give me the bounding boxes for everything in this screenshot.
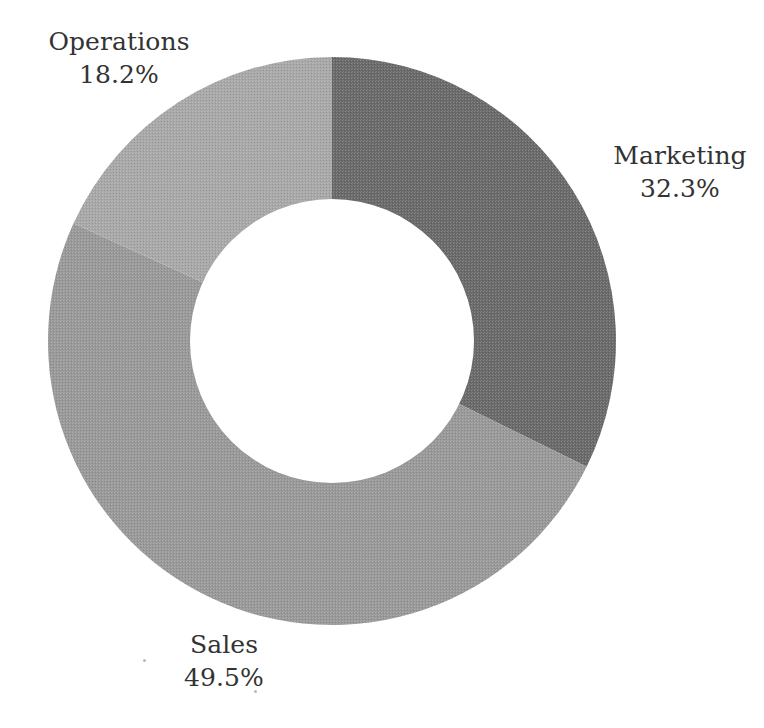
donut-chart-canvas (0, 0, 764, 728)
donut-hole (190, 199, 474, 483)
slice-label-sales-value: 49.5% (118, 662, 330, 695)
slice-label-operations: Operations 18.2% (14, 26, 224, 91)
slice-label-sales: Sales 49.5% (118, 629, 330, 694)
slice-label-marketing-name: Marketing (596, 140, 764, 173)
slice-label-sales-name: Sales (118, 629, 330, 662)
slice-label-marketing-value: 32.3% (596, 173, 764, 206)
donut-chart: Operations 18.2% Marketing 32.3% Sales 4… (0, 0, 764, 728)
slice-label-marketing: Marketing 32.3% (596, 140, 764, 205)
slice-label-operations-value: 18.2% (14, 59, 224, 92)
scan-speckle (143, 659, 146, 662)
slice-label-operations-name: Operations (14, 26, 224, 59)
scan-speckle (254, 690, 257, 693)
